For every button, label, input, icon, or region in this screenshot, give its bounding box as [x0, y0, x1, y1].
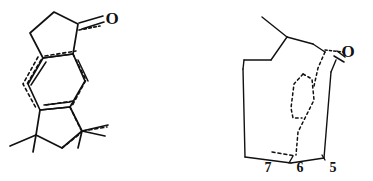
figure-canvas: O O 7 6 5 — [0, 0, 373, 181]
right-carbonyl-dashed-bond — [325, 50, 343, 52]
left-conformer-overlay-dashes — [23, 51, 86, 108]
right-cage-skeleton — [243, 17, 336, 163]
structure-left: O O 7 6 5 — [0, 0, 373, 181]
left-cyclopentane-ring — [36, 107, 82, 148]
right-oxygen-label: O — [341, 42, 354, 61]
right-position-label-6: 6 — [297, 160, 304, 175]
left-oxygen-label: O — [105, 9, 118, 28]
left-lower-dashed-bonds — [62, 107, 107, 148]
right-bottom-dashed-bond — [272, 152, 295, 156]
left-gem-dimethyl-substituents — [10, 125, 108, 152]
right-interior-dashed-loop — [291, 52, 325, 155]
right-position-label-7: 7 — [265, 160, 272, 175]
right-position-label-5: 5 — [330, 160, 337, 175]
